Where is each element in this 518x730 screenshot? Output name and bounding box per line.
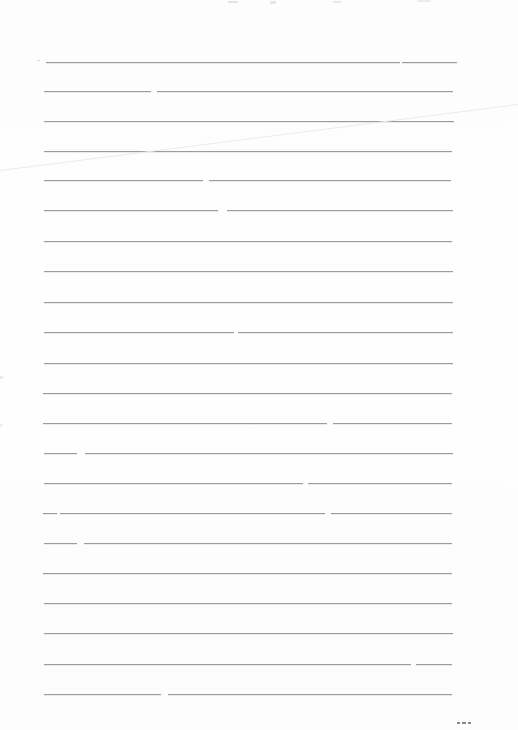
- ruled-line-15: [44, 483, 303, 484]
- ruled-line-10: [44, 332, 234, 333]
- ruled-line-2: [44, 91, 151, 92]
- ruled-line-17: [84, 543, 452, 544]
- dash-mark: [462, 722, 466, 724]
- ruled-line-4: [44, 151, 452, 152]
- page-speck: [0, 424, 2, 427]
- ruled-line-12: [43, 393, 452, 394]
- ruled-line-20: [44, 633, 453, 634]
- ruled-line-22: [168, 694, 452, 695]
- dash-mark: [468, 722, 471, 724]
- ruled-line-7: [44, 241, 452, 242]
- ruled-line-15: [308, 483, 452, 484]
- ruled-line-22: [44, 694, 161, 695]
- scan-viewport: [0, 0, 518, 730]
- ruled-line-11: [44, 363, 453, 364]
- ruled-line-21: [44, 664, 411, 665]
- crease-line: [0, 104, 518, 171]
- ruled-line-13: [333, 423, 452, 424]
- page-speck: [333, 1, 341, 3]
- ruled-line-16: [43, 513, 57, 514]
- ruled-line-6: [227, 210, 453, 211]
- ruled-line-1: [46, 62, 400, 63]
- ruled-line-16: [60, 513, 325, 514]
- page-speck: [0, 376, 3, 379]
- ruled-line-1: [402, 62, 457, 63]
- ruled-line-16: [331, 513, 452, 514]
- ruled-line-14: [85, 453, 453, 454]
- ruled-line-17: [44, 543, 77, 544]
- ruled-line-8: [44, 271, 453, 272]
- page-speck: [37, 60, 40, 61]
- dash-mark: [457, 722, 460, 724]
- ruled-line-5: [209, 180, 451, 181]
- ruled-line-5: [44, 180, 203, 181]
- page-speck: [228, 1, 238, 3]
- page-speck: [417, 0, 431, 2]
- ruled-line-3: [44, 121, 454, 122]
- ruled-line-10: [238, 332, 453, 333]
- ruled-line-14: [44, 453, 77, 454]
- ruled-line-19: [44, 603, 452, 604]
- ruled-line-6: [44, 210, 218, 211]
- ruled-line-18: [43, 573, 452, 574]
- ruled-line-9: [44, 302, 453, 303]
- ruled-line-2: [157, 91, 453, 92]
- ruled-line-21: [416, 664, 452, 665]
- page-speck: [270, 1, 276, 4]
- ruled-line-13: [43, 423, 327, 424]
- scanned-page: [0, 0, 518, 730]
